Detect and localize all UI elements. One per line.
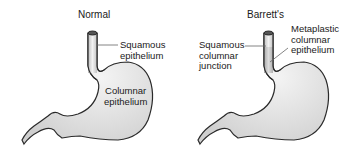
metaplastic-line-3: epithelium bbox=[291, 45, 339, 56]
squamous-columnar-junction-label: Squamous columnar junction bbox=[199, 40, 244, 72]
junction-line-3: junction bbox=[199, 61, 244, 72]
squamous-epithelium-line-1: Squamous bbox=[120, 40, 165, 51]
barretts-metaplastic-segment bbox=[264, 47, 273, 73]
squamous-epithelium-line-2: epithelium bbox=[120, 51, 165, 62]
columnar-epithelium-line-1: Columnar bbox=[104, 86, 147, 97]
barretts-title: Barrett's bbox=[247, 10, 284, 21]
squamous-epithelium-label: Squamous epithelium bbox=[120, 40, 165, 61]
barretts-esophagus-lumen bbox=[264, 31, 273, 35]
metaplastic-line-1: Metaplastic bbox=[291, 24, 339, 35]
normal-esophagus bbox=[88, 33, 97, 73]
normal-title: Normal bbox=[78, 10, 110, 21]
normal-esophagus-lumen bbox=[88, 31, 97, 35]
junction-line-1: Squamous bbox=[199, 40, 244, 51]
columnar-epithelium-line-2: epithelium bbox=[104, 97, 147, 108]
metaplastic-columnar-epithelium-label: Metaplastic columnar epithelium bbox=[291, 24, 339, 56]
columnar-epithelium-label: Columnar epithelium bbox=[104, 86, 147, 107]
